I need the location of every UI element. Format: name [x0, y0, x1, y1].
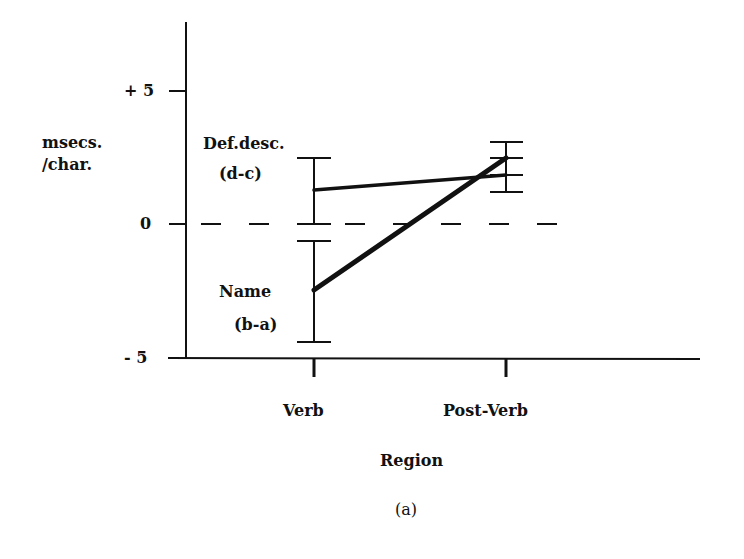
- series-label-name-line1: Name: [219, 282, 271, 301]
- y-axis-label-line2: /char.: [42, 155, 92, 174]
- x-axis: [168, 358, 700, 359]
- series-label-name-line2: (b-a): [234, 315, 277, 334]
- y-tick-label-zero: 0: [140, 214, 151, 233]
- figure-caption: (a): [395, 500, 417, 519]
- y-tick-label-minus5: - 5: [124, 348, 147, 367]
- y-axis-label-line1: msecs.: [42, 133, 102, 152]
- series-label-def-desc-line2: (d-c): [219, 164, 262, 183]
- x-tick-label-verb: Verb: [283, 401, 324, 420]
- x-axis-label: Region: [380, 451, 443, 470]
- series-line-name: [314, 158, 506, 290]
- y-tick-label-plus5: + 5: [124, 81, 154, 100]
- x-tick-label-post-verb: Post-Verb: [443, 401, 528, 420]
- series-label-def-desc-line1: Def.desc.: [203, 134, 285, 153]
- chart-plot-area: [0, 0, 744, 559]
